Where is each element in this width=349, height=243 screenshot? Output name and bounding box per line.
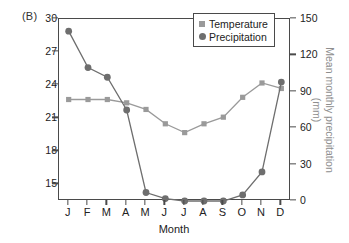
bottom-axis-tick-mark-3 (125, 200, 126, 205)
right-axis-tick-label-90: 90 (300, 85, 340, 97)
circle-marker-icon (199, 33, 206, 40)
left-axis-tick-label-30: 30 (17, 12, 57, 24)
square-marker-icon (199, 21, 205, 27)
bottom-axis-tick-mark-4 (144, 200, 145, 205)
left-axis-tick-label-27: 27 (17, 45, 57, 57)
bottom-axis-tick-mark-0 (67, 200, 68, 205)
data-point-temperature-M-2 (105, 97, 110, 102)
left-axis-tick-mark-24 (52, 84, 58, 85)
right-axis-tick-mark-150 (290, 17, 296, 18)
right-axis-tick-mark-90 (290, 90, 296, 91)
bottom-axis-tick-mark-1 (86, 200, 87, 205)
data-point-precipitation-M-2 (104, 74, 111, 81)
legend-item-precipitation: Precipitation (199, 30, 268, 43)
right-axis-tick-mark-120 (290, 54, 296, 55)
data-point-precipitation-M-4 (143, 189, 150, 196)
bottom-axis-tick-mark-6 (183, 200, 184, 205)
data-point-precipitation-N-10 (259, 168, 266, 175)
data-point-temperature-S-8 (221, 115, 226, 120)
right-axis-tick-mark-0 (290, 199, 296, 200)
left-axis-tick-mark-21 (52, 117, 58, 118)
left-axis-tick-mark-30 (52, 17, 58, 18)
bottom-axis-tick-mark-11 (280, 200, 281, 205)
right-axis-tick-label-120: 120 (300, 48, 340, 60)
data-point-temperature-A-7 (201, 121, 206, 126)
data-point-temperature-M-4 (143, 107, 148, 112)
data-point-temperature-J-0 (66, 97, 71, 102)
legend-label-precipitation: Precipitation (209, 31, 267, 43)
left-axis-tick-label-15: 15 (17, 177, 57, 189)
data-point-temperature-A-3 (124, 100, 129, 105)
bottom-axis-title: Month (58, 223, 290, 235)
right-axis-tick-mark-60 (290, 127, 296, 128)
legend-label-temperature: Temperature (209, 18, 268, 30)
bottom-axis-tick-mark-10 (260, 200, 261, 205)
left-axis-tick-mark-18 (52, 150, 58, 151)
right-axis-title: Mean monthly precipitation (mm) (310, 45, 336, 175)
data-point-precipitation-F-1 (85, 64, 92, 71)
left-axis-tick-mark-27 (52, 50, 58, 51)
series-line-precipitation (69, 31, 282, 201)
data-point-precipitation-A-3 (123, 107, 130, 114)
data-point-temperature-N-10 (259, 80, 264, 85)
climate-chart-figure: (B) Mean monthly temperature (°C) Mean m… (0, 0, 349, 243)
bottom-axis-tick-mark-2 (106, 200, 107, 205)
bottom-axis-tick-mark-7 (202, 200, 203, 205)
left-axis-tick-label-24: 24 (17, 78, 57, 90)
data-point-precipitation-J-0 (65, 28, 72, 35)
left-axis-tick-label-21: 21 (17, 111, 57, 123)
right-axis-tick-label-60: 60 (300, 121, 340, 133)
bottom-axis-tick-label-11: D (268, 206, 292, 218)
data-point-temperature-J-6 (182, 130, 187, 135)
bottom-axis-tick-mark-8 (222, 200, 223, 205)
bottom-axis-tick-mark-5 (164, 200, 165, 205)
data-point-precipitation-O-9 (239, 192, 246, 199)
legend-item-temperature: Temperature (199, 17, 268, 30)
bottom-axis-tick-mark-9 (241, 200, 242, 205)
data-point-precipitation-D-11 (278, 79, 285, 86)
data-point-temperature-F-1 (85, 97, 90, 102)
right-axis-tick-mark-30 (290, 163, 296, 164)
chart-legend: Temperature Precipitation (193, 13, 275, 47)
data-point-temperature-O-9 (240, 95, 245, 100)
left-axis-tick-mark-15 (52, 183, 58, 184)
data-point-temperature-J-5 (163, 121, 168, 126)
left-axis-tick-label-18: 18 (17, 144, 57, 156)
right-axis-tick-label-150: 150 (300, 12, 340, 24)
right-axis-tick-label-30: 30 (300, 158, 340, 170)
right-axis-tick-label-0: 0 (300, 194, 340, 206)
series-line-temperature (69, 83, 282, 133)
